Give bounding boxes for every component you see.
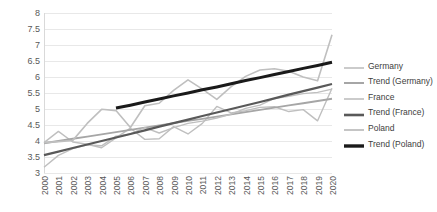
legend-item[interactable]: Germany [344,58,437,74]
x-axis-tick-label: 2005 [112,176,122,195]
x-axis-tick-label: 2009 [170,176,180,195]
plot-area [44,13,332,173]
x-axis-tick-label: 2010 [184,176,194,195]
x-axis-tick-label: 2006 [126,176,136,195]
legend-label: Trend (Poland) [368,140,424,149]
series-line-trend-poland [116,62,332,108]
legend-label: Trend (Germany) [368,77,433,86]
x-axis-tick-label: 2008 [155,176,165,195]
legend-item[interactable]: Trend (Poland) [344,136,437,152]
x-axis-tick-label: 2013 [227,176,237,195]
legend-item[interactable]: Trend (Germany) [344,74,437,90]
x-axis-tick-label: 2003 [83,176,93,195]
x-axis-tick-label: 2016 [270,176,280,195]
gridline [44,173,332,174]
x-axis-tick-label: 2012 [213,176,223,195]
legend-item[interactable]: Poland [344,120,437,136]
series-line-poland [44,35,332,143]
x-axis-tick-label: 2018 [299,176,309,195]
y-axis-tick-label: 5 [35,104,40,114]
line-chart: 87.576.565.554.543.53 200020012002200320… [0,0,437,212]
y-axis-labels: 87.576.565.554.543.53 [0,13,40,173]
y-axis-tick-label: 6 [35,72,40,82]
y-axis-tick-label: 4 [35,136,40,146]
series-line-trend-germany [44,99,332,143]
y-axis-tick-label: 8 [35,8,40,18]
series-line-germany [44,88,332,148]
x-axis-tick-label: 2004 [98,176,108,195]
series-svg [44,13,332,173]
x-axis-tick-label: 2002 [69,176,79,195]
x-axis-tick-label: 2015 [256,176,266,195]
legend-swatch-icon [344,135,364,153]
y-axis-tick-label: 4.5 [27,120,40,130]
x-axis-labels: 2000200120022003200420052006200720082009… [44,176,332,210]
x-axis-tick-label: 2011 [198,176,208,194]
y-axis-tick-label: 7 [35,40,40,50]
y-axis-tick-label: 3.5 [27,152,40,162]
x-axis-tick-label: 2014 [242,176,252,195]
x-axis-tick-label: 2020 [328,176,338,195]
x-axis-tick-label: 2000 [40,176,50,195]
x-axis-tick-label: 2001 [54,176,64,195]
y-axis-tick-label: 6.5 [27,56,40,66]
legend-label: Trend (France) [368,108,424,117]
series-lines [44,13,332,173]
legend-item[interactable]: France [344,89,437,105]
y-axis-tick-label: 5.5 [27,88,40,98]
x-axis-tick-label: 2017 [285,176,295,195]
series-line-france [44,89,332,167]
legend-label: Poland [368,124,394,133]
legend-label: France [368,93,394,102]
legend-item[interactable]: Trend (France) [344,105,437,121]
x-axis-tick-label: 2007 [141,176,151,195]
x-axis-tick-label: 2019 [314,176,324,195]
chart-legend: GermanyTrend (Germany)FranceTrend (Franc… [344,58,437,152]
legend-label: Germany [368,62,403,71]
y-axis-tick-label: 7.5 [27,24,40,34]
series-line-trend-france [44,84,332,155]
